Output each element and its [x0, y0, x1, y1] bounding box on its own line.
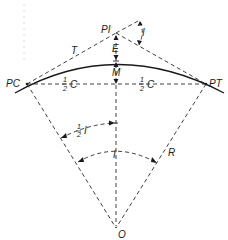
svg-text:I: I	[84, 125, 87, 136]
back-tangent-line	[27, 33, 116, 84]
pt-point	[205, 83, 208, 86]
svg-text:1: 1	[140, 76, 144, 83]
svg-text:2: 2	[139, 85, 144, 92]
svg-text:C: C	[70, 79, 78, 90]
pc-point	[26, 83, 29, 86]
central-angle-label: I	[113, 149, 116, 160]
half-angle-arc	[61, 123, 115, 138]
pi-label: PI	[101, 24, 111, 35]
svg-text:1: 1	[63, 76, 67, 83]
svg-text:1: 1	[77, 123, 81, 130]
radius-right-line	[116, 84, 206, 228]
central-angle-arc	[78, 151, 157, 163]
arrowhead	[61, 133, 67, 138]
external-label: E	[112, 43, 119, 54]
half-chord-left-label: 1 2 C	[62, 76, 78, 92]
svg-text:2: 2	[76, 131, 81, 138]
half-angle-label: 1 2 I	[76, 123, 87, 138]
arrowhead	[137, 40, 142, 45]
deflection-angle-label: I	[142, 27, 145, 38]
svg-text:C: C	[147, 79, 155, 90]
pc-label: PC	[6, 78, 21, 89]
svg-text:2: 2	[62, 85, 67, 92]
arrowhead	[78, 157, 84, 162]
tangent-extension-line	[116, 20, 140, 33]
radius-left-line	[27, 84, 116, 228]
pt-label: PT	[209, 78, 223, 89]
arrowhead	[151, 157, 157, 163]
half-chord-right-label: 1 2 C	[139, 76, 155, 92]
tangent-label: T	[71, 45, 78, 56]
middle-ordinate-label: M	[112, 67, 121, 78]
curve-diagram: PI T E M I PC PT 1 2 C 1 2 C 1 2 I I R O	[0, 0, 228, 240]
forward-tangent-line	[116, 33, 206, 84]
radius-label: R	[168, 147, 175, 158]
center-label: O	[118, 229, 126, 240]
